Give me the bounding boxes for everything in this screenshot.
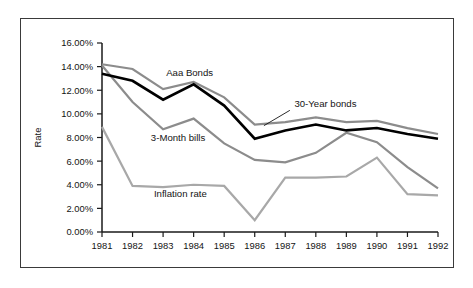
x-tick-label: 1992 bbox=[428, 240, 449, 251]
x-tick-label: 1983 bbox=[153, 240, 174, 251]
x-tick-label: 1987 bbox=[275, 240, 296, 251]
y-tick-label: 10.00% bbox=[61, 108, 93, 119]
series-annotations: Aaa Bonds30-Year bonds3-Month billsInfla… bbox=[151, 67, 357, 198]
x-tick-labels: 1981198219831984198519861987198819891990… bbox=[92, 240, 449, 251]
x-tick-label: 1991 bbox=[397, 240, 418, 251]
x-tick-label: 1988 bbox=[305, 240, 326, 251]
y-tick-label: 16.00% bbox=[61, 37, 93, 48]
line-chart: 0.00%2.00%4.00%6.00%8.00%10.00%12.00%14.… bbox=[0, 0, 473, 288]
y-axis bbox=[97, 43, 102, 232]
x-tick-label: 1989 bbox=[336, 240, 357, 251]
series-line-aaa-bonds bbox=[102, 64, 438, 134]
y-axis-title-text: Rate bbox=[32, 128, 43, 148]
series-label-inflation-rate: Inflation rate bbox=[154, 188, 207, 199]
x-axis bbox=[102, 232, 438, 237]
series-label-3-month-bills: 3-Month bills bbox=[151, 132, 206, 143]
y-tick-label: 12.00% bbox=[61, 85, 93, 96]
series-label-30-year-bonds: 30-Year bonds bbox=[294, 98, 356, 109]
y-axis-title: Rate bbox=[32, 128, 43, 148]
y-tick-label: 0.00% bbox=[66, 226, 93, 237]
x-tick-label: 1990 bbox=[366, 240, 387, 251]
x-tick-label: 1982 bbox=[122, 240, 143, 251]
x-tick-label: 1984 bbox=[183, 240, 204, 251]
y-tick-label: 2.00% bbox=[66, 203, 93, 214]
y-tick-label: 4.00% bbox=[66, 179, 93, 190]
y-tick-label: 8.00% bbox=[66, 132, 93, 143]
series-line-30-year-bonds bbox=[102, 74, 438, 139]
y-tick-labels: 0.00%2.00%4.00%6.00%8.00%10.00%12.00%14.… bbox=[61, 37, 93, 237]
series-label-aaa-bonds: Aaa Bonds bbox=[166, 67, 213, 78]
y-tick-label: 6.00% bbox=[66, 156, 93, 167]
chart-figure: 0.00%2.00%4.00%6.00%8.00%10.00%12.00%14.… bbox=[0, 0, 473, 288]
x-tick-label: 1981 bbox=[92, 240, 113, 251]
x-tick-label: 1985 bbox=[214, 240, 235, 251]
y-tick-label: 14.00% bbox=[61, 61, 93, 72]
x-tick-label: 1986 bbox=[244, 240, 265, 251]
